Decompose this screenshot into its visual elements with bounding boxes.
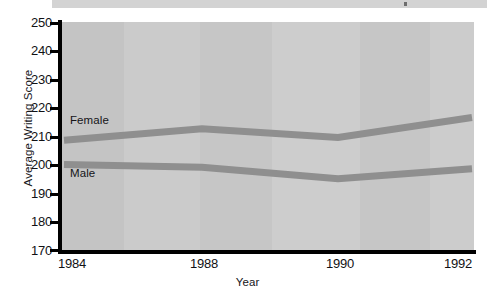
y-tick-label-250: 250 [12,16,52,29]
y-tick-mark-190 [50,193,60,196]
y-tick-mark-180 [50,221,60,224]
x-tick-label-1992: 1992 [444,256,472,271]
y-tick-label-170: 170 [12,244,52,257]
y-tick-label-240: 240 [12,44,52,57]
x-tick-label-1984: 1984 [58,256,86,271]
plot-bg-band-6 [430,22,474,250]
y-axis-tick-label-group: 250 240 230 220 210 200 190 180 170 [12,0,52,294]
y-tick-label-230: 230 [12,73,52,86]
plot-bg-band-3 [200,22,272,250]
y-tick-label-200: 200 [12,158,52,171]
plot-bg-band-1 [62,22,124,250]
line-chart-figure: Average Writing Score 250 240 230 220 21… [0,0,495,294]
plot-bg-band-5 [360,22,430,250]
x-tick-label-1988: 1988 [190,256,218,271]
plot-bg-band-4 [272,22,360,250]
series-label-female: Female [70,114,109,126]
y-tick-mark-210 [50,136,60,139]
y-tick-label-220: 220 [12,101,52,114]
y-tick-label-210: 210 [12,130,52,143]
x-tick-label-1990: 1990 [326,256,354,271]
y-tick-mark-220 [50,107,60,110]
y-tick-mark-250 [50,22,60,25]
plot-bg-band-2 [124,22,200,250]
y-tick-mark-230 [50,79,60,82]
y-tick-mark-170 [50,249,60,252]
y-tick-label-180: 180 [12,215,52,228]
plot-area [62,22,474,250]
x-axis-line [58,250,476,254]
x-axis-title: Year [0,276,495,288]
y-tick-mark-240 [50,50,60,53]
y-tick-label-190: 190 [12,187,52,200]
series-label-male: Male [70,167,95,179]
y-tick-mark-200 [50,164,60,167]
